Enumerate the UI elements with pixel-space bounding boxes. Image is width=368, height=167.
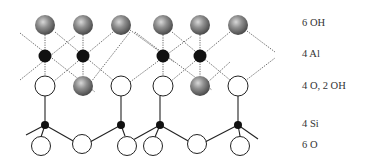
hydroxyl-sphere xyxy=(190,76,210,96)
oxygen-circle xyxy=(73,135,92,154)
silicon-atom xyxy=(117,121,125,129)
hydroxyl-sphere xyxy=(73,15,93,35)
hydroxyl-sphere xyxy=(228,15,248,35)
silicon-atom xyxy=(234,121,242,129)
label-4-o-2-oh: 4 O, 2 OH xyxy=(302,80,346,92)
aluminum-atom xyxy=(194,50,207,63)
hydroxyl-sphere xyxy=(190,15,210,35)
oxygen-circle xyxy=(228,76,248,96)
label-6-oh: 6 OH xyxy=(302,17,325,29)
aluminum-atom xyxy=(39,50,52,63)
oxygen-circle xyxy=(188,135,207,154)
oxygen-hydroxyl-mid-row xyxy=(35,76,248,96)
aluminum-row xyxy=(39,50,207,63)
hydroxyl-top-row xyxy=(35,15,248,35)
label-4-si: 4 Si xyxy=(302,118,319,130)
oxygen-circle xyxy=(32,137,51,156)
label-6-o: 6 O xyxy=(302,139,317,151)
oxygen-circle xyxy=(35,76,55,96)
oxygen-bottom-row xyxy=(32,135,250,156)
oxygen-circle xyxy=(111,76,131,96)
oxygen-circle xyxy=(144,137,163,156)
oxygen-circle xyxy=(231,137,250,156)
label-4-al: 4 Al xyxy=(302,48,320,60)
hydroxyl-sphere xyxy=(111,15,131,35)
silicon-atom xyxy=(156,121,164,129)
hydroxyl-sphere xyxy=(73,76,93,96)
oxygen-circle xyxy=(153,76,173,96)
aluminum-atom xyxy=(77,50,90,63)
hydroxyl-sphere xyxy=(153,15,173,35)
silicon-atom xyxy=(41,121,49,129)
aluminum-atom xyxy=(157,50,170,63)
hydroxyl-sphere xyxy=(35,15,55,35)
oxygen-circle xyxy=(118,137,137,156)
tetrahedral-solid-bonds xyxy=(26,96,258,142)
silicon-row xyxy=(41,121,242,129)
